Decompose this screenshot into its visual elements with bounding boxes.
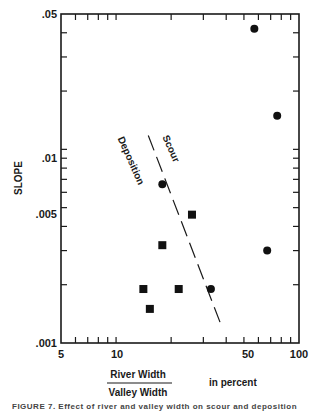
square-data-point xyxy=(146,305,154,313)
circle-data-point xyxy=(158,180,166,188)
y-axis-title: SLOPE xyxy=(13,161,24,195)
plot-frame xyxy=(61,14,299,343)
scour-label: Scour xyxy=(160,133,182,163)
y-tick-labels: .05 .01 .005 .001 xyxy=(36,8,57,349)
square-data-point xyxy=(158,241,166,249)
y-tick-label: .001 xyxy=(36,337,57,349)
circle-data-point xyxy=(207,285,215,293)
x-tick-labels: 5 10 50 100 xyxy=(58,348,308,360)
square-data-point xyxy=(175,285,183,293)
square-data-point xyxy=(139,285,147,293)
x-axis-unit: in percent xyxy=(209,377,257,388)
deposition-label: Deposition xyxy=(116,135,147,187)
y-tick-label: .01 xyxy=(42,152,57,164)
circle-data-point xyxy=(250,25,258,33)
figure-caption: FIGURE 7. Effect of river and valley wid… xyxy=(12,402,324,413)
square-data-point xyxy=(188,211,196,219)
circle-data-point xyxy=(263,247,271,255)
x-tick-label: 5 xyxy=(58,348,64,360)
y-tick-label: .05 xyxy=(42,8,57,20)
boundary-dashed-line xyxy=(148,135,222,327)
axis-ticks xyxy=(61,14,299,343)
x-tick-label: 50 xyxy=(242,348,254,360)
x-tick-label: 100 xyxy=(290,348,308,360)
x-tick-label: 10 xyxy=(111,348,123,360)
y-tick-label: .005 xyxy=(36,208,57,220)
circle-data-point xyxy=(273,112,281,120)
x-axis-numerator: River Width xyxy=(110,369,165,380)
scatter-chart: .05 .01 .005 .001 5 10 50 100 SLOPE Rive… xyxy=(0,0,324,413)
x-axis-denominator: Valley Width xyxy=(109,387,168,398)
